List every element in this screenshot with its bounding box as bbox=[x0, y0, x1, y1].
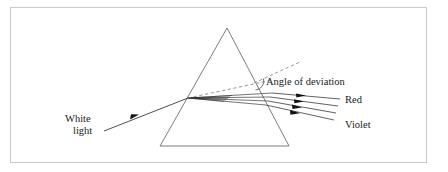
label-white-light-line1: White bbox=[65, 113, 91, 124]
figure-frame bbox=[11, 8, 427, 163]
label-angle-of-deviation: Angle of deviation bbox=[266, 76, 345, 87]
label-red: Red bbox=[345, 94, 363, 105]
prism-dispersion-figure: White light Angle of deviation Red Viole… bbox=[0, 0, 448, 172]
label-violet: Violet bbox=[345, 119, 371, 130]
figure-canvas: White light Angle of deviation Red Viole… bbox=[0, 0, 448, 172]
label-white-light-line2: light bbox=[73, 125, 92, 136]
